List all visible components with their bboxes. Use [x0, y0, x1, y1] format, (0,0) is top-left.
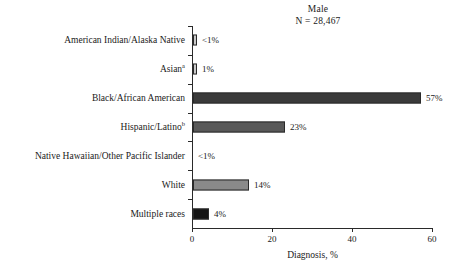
x-axis-title: Diagnosis, % — [192, 250, 433, 260]
bar-value-label: 57% — [426, 93, 443, 103]
bar-row: American Indian/Alaska Native<1% — [192, 26, 432, 55]
bar-row: White14% — [192, 170, 432, 199]
bar-value-label: <1% — [198, 151, 215, 161]
category-label: American Indian/Alaska Native — [64, 35, 185, 45]
y-axis-tick — [188, 26, 192, 27]
x-axis-tick-label: 20 — [268, 234, 277, 244]
y-axis-tick — [188, 199, 192, 200]
bar — [193, 35, 197, 46]
bar — [193, 121, 285, 132]
bar-chart-figure: Male N = 28,467 American Indian/Alaska N… — [0, 0, 458, 273]
x-axis-tick-label: 0 — [190, 234, 195, 244]
x-axis-tick — [352, 228, 353, 232]
bar-row: Asiana1% — [192, 55, 432, 84]
x-axis-tick — [272, 228, 273, 232]
y-axis-tick — [188, 84, 192, 85]
y-axis-tick — [188, 113, 192, 114]
chart-title: Male — [238, 4, 398, 16]
category-label: Multiple races — [130, 209, 185, 219]
bar-value-label: <1% — [202, 35, 219, 45]
category-label: Asiana — [160, 64, 185, 74]
footnote-marker: a — [182, 62, 185, 69]
bar — [193, 64, 197, 75]
category-label: Hispanic/Latinob — [121, 122, 185, 132]
bar-row: Hispanic/Latinob23% — [192, 113, 432, 142]
category-label: Native Hawaiian/Other Pacific Islander — [35, 151, 185, 161]
plot-area: American Indian/Alaska Native<1%Asiana1%… — [192, 26, 432, 228]
x-axis-tick — [432, 228, 433, 232]
bar-row: Multiple races4% — [192, 199, 432, 228]
x-axis-tick-label: 60 — [428, 234, 437, 244]
category-label: Black/African American — [92, 93, 185, 103]
bar — [193, 93, 421, 104]
y-axis-tick — [188, 55, 192, 56]
y-axis-tick — [188, 141, 192, 142]
x-axis-tick — [192, 228, 193, 232]
bar-value-label: 23% — [290, 122, 307, 132]
category-label: White — [162, 180, 185, 190]
x-axis-tick-label: 40 — [348, 234, 357, 244]
footnote-marker: b — [182, 120, 185, 127]
y-axis-tick — [188, 170, 192, 171]
bar — [193, 179, 249, 190]
bar-value-label: 1% — [202, 64, 214, 74]
bar-row: Black/African American57% — [192, 84, 432, 113]
bar-value-label: 4% — [214, 209, 226, 219]
x-axis-line — [192, 228, 433, 229]
bar-value-label: 14% — [254, 180, 271, 190]
bar-row: Native Hawaiian/Other Pacific Islander<1… — [192, 141, 432, 170]
bar — [193, 208, 209, 219]
chart-title-block: Male N = 28,467 — [238, 4, 398, 28]
